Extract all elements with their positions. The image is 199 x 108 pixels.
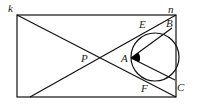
line-bottom-to-n [30,15,176,97]
label-F: F [140,82,148,94]
label-B: B [166,17,173,29]
label-C: C [177,81,185,93]
label-A: A [120,52,128,64]
label-n: n [168,3,174,15]
label-E: E [138,18,146,30]
line-k-to-corner [17,15,176,97]
label-P: P [80,52,88,64]
segment-AB [131,28,172,58]
geometry-diagram: k n P A B C E F [0,0,199,108]
label-k: k [8,2,14,14]
